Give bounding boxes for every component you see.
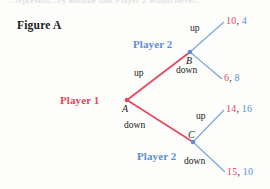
node-B-dot[interactable] bbox=[188, 50, 193, 55]
game-tree-graphic bbox=[0, 0, 270, 189]
payoff-pair-3: 14, 16 bbox=[226, 103, 252, 114]
edge-label-C-down: down bbox=[184, 155, 205, 166]
edge-label-C-up: up bbox=[196, 110, 206, 121]
figure-canvas: ...represent...by assume that Player 2 w… bbox=[0, 0, 270, 189]
edge-label-B-down: down bbox=[176, 64, 197, 75]
payoff-pair-1: 10, 4 bbox=[226, 15, 247, 26]
payoff-2-player2: 8 bbox=[235, 72, 240, 83]
payoff-1-player1: 10 bbox=[226, 15, 236, 26]
node-C-owner-player-2: Player 2 bbox=[137, 150, 176, 162]
node-A-owner-player-1: Player 1 bbox=[60, 94, 99, 106]
payoff-3-separator: , bbox=[236, 103, 239, 114]
edge-label-A-up: up bbox=[134, 67, 144, 78]
payoff-2-separator: , bbox=[229, 72, 232, 83]
node-A-dot[interactable] bbox=[125, 98, 130, 103]
node-A-letter: A bbox=[122, 103, 128, 114]
payoff-1-separator: , bbox=[236, 15, 239, 26]
edge-label-B-up: up bbox=[190, 22, 200, 33]
payoff-pair-4: 15, 10 bbox=[227, 166, 253, 177]
node-C-letter: C bbox=[188, 129, 195, 140]
node-C-dot[interactable] bbox=[191, 140, 196, 145]
payoff-4-player1: 15 bbox=[227, 166, 237, 177]
payoff-3-player1: 14 bbox=[226, 103, 236, 114]
payoff-1-player2: 4 bbox=[242, 15, 247, 26]
payoff-3-player2: 16 bbox=[242, 103, 252, 114]
payoff-4-player2: 10 bbox=[243, 166, 253, 177]
node-B-owner-player-2: Player 2 bbox=[133, 38, 172, 50]
edge-label-A-down: down bbox=[124, 119, 145, 130]
payoff-4-separator: , bbox=[237, 166, 240, 177]
payoff-pair-2: 6, 8 bbox=[224, 72, 240, 83]
